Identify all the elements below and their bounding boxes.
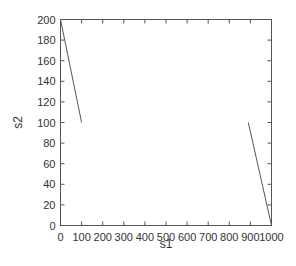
data-series	[61, 20, 272, 226]
x-tick-label: 700	[199, 231, 217, 243]
x-tick-label: 800	[220, 231, 238, 243]
y-axis-ticks: 020406080100120140160180200	[37, 14, 271, 232]
x-axis-title: s1	[160, 237, 173, 251]
x-tick-label: 300	[115, 231, 133, 243]
y-axis-title: s2	[11, 116, 25, 129]
y-tick-label: 40	[43, 178, 55, 190]
plot-frame	[61, 20, 272, 226]
y-tick-label: 80	[43, 137, 55, 149]
x-tick-label: 400	[136, 231, 154, 243]
x-tick-label: 1000	[259, 231, 283, 243]
y-tick-label: 60	[43, 158, 55, 170]
chart-canvas: 020406080100120140160180200 010020030040…	[0, 0, 296, 266]
series-line-segment-2	[248, 123, 271, 226]
series-line-segment-1	[61, 20, 82, 123]
x-tick-label: 200	[94, 231, 112, 243]
x-tick-label: 900	[241, 231, 259, 243]
y-tick-label: 0	[49, 220, 55, 232]
y-tick-label: 140	[37, 75, 55, 87]
y-tick-label: 120	[37, 96, 55, 108]
x-tick-label: 600	[178, 231, 196, 243]
y-tick-label: 20	[43, 199, 55, 211]
y-tick-label: 180	[37, 34, 55, 46]
x-tick-label: 0	[57, 231, 63, 243]
x-tick-label: 100	[72, 231, 90, 243]
y-tick-label: 200	[37, 14, 55, 26]
y-tick-label: 100	[37, 117, 55, 129]
y-tick-label: 160	[37, 55, 55, 67]
